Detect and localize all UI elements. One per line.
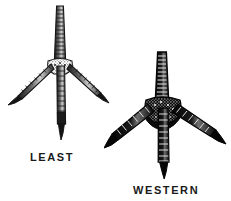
western-tarsus (155, 52, 168, 98)
least-tarsus (54, 6, 65, 60)
least-inner-toe-shaft (18, 64, 54, 99)
least-middle-toe-claw (58, 124, 64, 140)
western-inner-toe (104, 104, 154, 148)
least-inner-toe (8, 64, 54, 105)
western-middle-toe (158, 108, 169, 179)
western-outer-toe (172, 104, 226, 144)
foot-comparison-figure: LEAST WESTERN (0, 0, 231, 201)
least-sandpiper-foot-illustration (4, 4, 116, 149)
western-tarsus-shaft (155, 52, 168, 98)
least-inner-toe-claw (8, 96, 22, 105)
least-middle-toe (57, 66, 66, 140)
western-sandpiper-label: WESTERN (133, 185, 199, 196)
western-sandpiper-foot-illustration (104, 50, 228, 185)
least-middle-toe-distal (57, 112, 65, 124)
western-foot-body (104, 52, 226, 179)
least-foot-body (8, 6, 109, 140)
least-sandpiper-label: LEAST (30, 152, 74, 163)
least-outer-toe (67, 64, 109, 103)
western-middle-toe-claw (160, 162, 168, 179)
western-middle-toe-shaft (158, 108, 169, 162)
